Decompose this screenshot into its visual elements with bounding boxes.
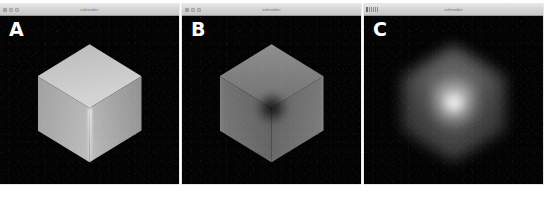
panel-label-c: C	[373, 20, 387, 39]
render-canvas-c: C	[364, 16, 543, 184]
render-canvas-b: B	[182, 16, 361, 184]
titlebar-a[interactable]: volrender	[0, 4, 179, 16]
zoom-button-icon[interactable]	[197, 8, 201, 12]
tick-mark-icon	[375, 7, 376, 12]
titlebar-c[interactable]: volrender	[364, 4, 543, 16]
window-title-a: volrender	[0, 4, 179, 16]
window-controls-b[interactable]	[185, 8, 201, 12]
panel-label-b: B	[191, 20, 205, 39]
panel-row: volrender A volren	[0, 4, 544, 184]
window-title-c: volrender	[364, 4, 543, 16]
central-glow	[426, 75, 482, 131]
figure-container: volrender A volren	[0, 0, 544, 202]
tick-mark-icon	[366, 7, 368, 12]
render-canvas-a: A	[0, 16, 179, 184]
minimize-button-icon[interactable]	[9, 8, 13, 12]
minimize-button-icon[interactable]	[191, 8, 195, 12]
zoom-button-icon[interactable]	[15, 8, 19, 12]
specular-highlight	[88, 108, 91, 162]
tick-mark-icon	[369, 7, 370, 12]
cube-render-a	[38, 44, 142, 162]
dark-core	[255, 91, 289, 125]
close-button-icon[interactable]	[3, 8, 7, 12]
tick-mark-icon	[377, 7, 378, 12]
window-panel-c[interactable]: volrender C	[364, 4, 543, 184]
window-panel-a[interactable]: volrender A	[0, 4, 179, 184]
cube-render-b	[220, 44, 324, 162]
window-controls-a[interactable]	[3, 8, 19, 12]
close-button-icon[interactable]	[185, 8, 189, 12]
panel-label-a: A	[9, 20, 24, 39]
tick-mark-icon	[373, 7, 374, 12]
window-panel-b[interactable]: volrender B	[182, 4, 361, 184]
titlebar-b[interactable]: volrender	[182, 4, 361, 16]
window-title-b: volrender	[182, 4, 361, 16]
tick-mark-icon	[371, 7, 372, 12]
window-controls-c[interactable]	[366, 7, 378, 12]
